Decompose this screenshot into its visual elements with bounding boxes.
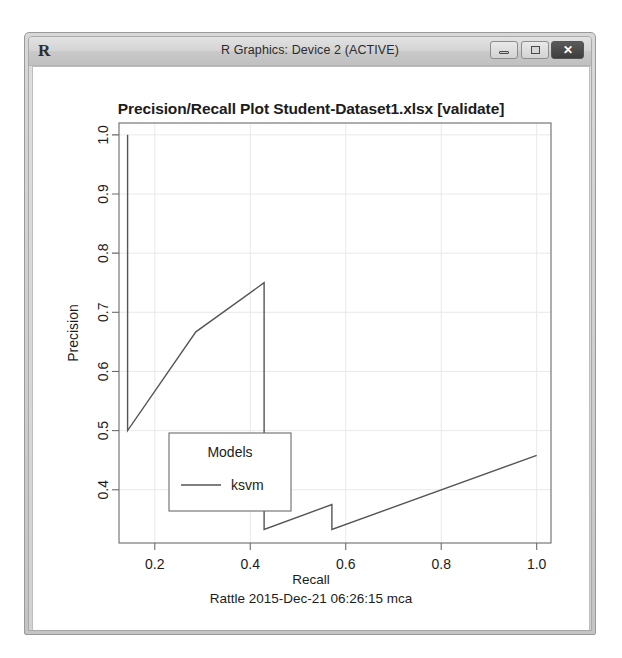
svg-text:0.5: 0.5 xyxy=(95,421,111,441)
svg-text:Precision: Precision xyxy=(65,304,81,362)
svg-text:0.8: 0.8 xyxy=(95,243,111,263)
maximize-icon xyxy=(531,46,540,54)
r-graphics-window: R R Graphics: Device 2 (ACTIVE) ✕ Precis… xyxy=(24,32,596,635)
x-axis-tick-labels: 0.20.40.60.81.0 xyxy=(145,556,547,572)
svg-text:0.4: 0.4 xyxy=(95,480,111,500)
svg-text:0.8: 0.8 xyxy=(431,556,451,572)
x-axis-label: Recall xyxy=(33,572,589,587)
precision-recall-plot: 0.20.40.60.81.0 0.40.50.60.70.80.91.0 Pr… xyxy=(33,67,590,631)
svg-text:Models: Models xyxy=(207,444,252,460)
window-titlebar[interactable]: R R Graphics: Device 2 (ACTIVE) ✕ xyxy=(29,37,591,66)
y-axis-tick-labels: 0.40.50.60.70.80.91.0 xyxy=(95,125,111,500)
x-axis-ticks xyxy=(155,543,537,550)
minimize-icon xyxy=(499,51,509,54)
svg-text:ksvm: ksvm xyxy=(231,477,264,493)
svg-text:0.4: 0.4 xyxy=(241,556,261,572)
window-inner-frame: R R Graphics: Device 2 (ACTIVE) ✕ Precis… xyxy=(28,36,592,631)
svg-text:0.6: 0.6 xyxy=(95,362,111,382)
svg-text:1.0: 1.0 xyxy=(95,125,111,145)
svg-text:0.2: 0.2 xyxy=(145,556,165,572)
svg-text:0.6: 0.6 xyxy=(336,556,356,572)
svg-text:0.9: 0.9 xyxy=(95,184,111,204)
svg-text:0.7: 0.7 xyxy=(95,302,111,322)
legend: Modelsksvm xyxy=(169,433,291,511)
timestamp-caption: Rattle 2015-Dec-21 06:26:15 mca xyxy=(33,591,589,606)
maximize-button[interactable] xyxy=(521,41,549,59)
graphics-canvas: Precision/Recall Plot Student-Dataset1.x… xyxy=(32,66,590,631)
minimize-button[interactable] xyxy=(490,41,518,59)
screen: R R Graphics: Device 2 (ACTIVE) ✕ Precis… xyxy=(0,0,622,658)
close-button[interactable]: ✕ xyxy=(551,41,584,59)
close-icon: ✕ xyxy=(552,42,583,58)
y-axis-label: Precision xyxy=(65,304,81,362)
svg-text:1.0: 1.0 xyxy=(527,556,547,572)
y-axis-ticks xyxy=(112,135,119,490)
